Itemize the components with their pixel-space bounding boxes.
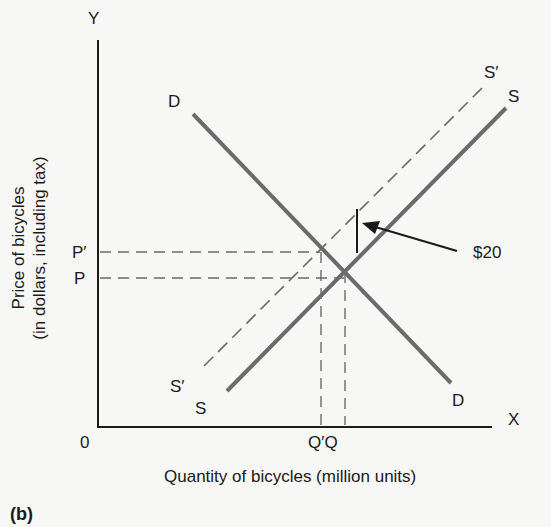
x-axis-letter: X: [508, 411, 519, 428]
supply-curve-shifted: [204, 88, 482, 366]
panel-label: (b): [10, 504, 33, 525]
supply-shifted-label-top: S′: [484, 64, 499, 81]
demand-label-bottom: D: [452, 392, 464, 409]
x-axis-title: Quantity of bicycles (million units): [164, 468, 416, 485]
tax-arrow-head: [362, 221, 380, 234]
y-axis-letter: Y: [88, 10, 99, 27]
supply-label-bottom: S: [195, 400, 206, 417]
tax-amount-label: $20: [473, 244, 501, 261]
supply-shifted-label-bottom: S′: [170, 378, 185, 395]
y-axis-title-line1: Price of bicycles: [8, 118, 29, 378]
p-prime-label: P′: [72, 244, 87, 261]
demand-curve: [193, 114, 451, 383]
supply-curve: [227, 108, 506, 391]
supply-label-top: S: [508, 88, 519, 105]
tax-arrow-shaft: [372, 226, 457, 251]
demand-label-top: D: [168, 93, 180, 110]
q-labels: Q′Q: [308, 434, 338, 451]
y-axis-title: Price of bicycles (in dollars, including…: [8, 118, 50, 378]
p-label: P: [74, 270, 85, 287]
y-axis-title-line2: (in dollars, including tax): [29, 118, 50, 378]
origin-label: 0: [80, 434, 89, 451]
